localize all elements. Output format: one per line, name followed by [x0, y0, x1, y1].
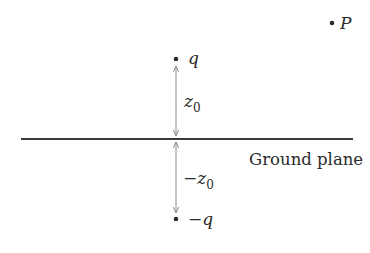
- point-p-dot: [330, 21, 335, 26]
- positive-charge-label: q: [188, 48, 199, 68]
- distance-label-below: −z0: [183, 168, 214, 192]
- point-p-label: P: [339, 13, 352, 33]
- image-charge-diagram: q −q P z0 −z0 Ground plane: [0, 0, 370, 253]
- distance-label-above: z0: [183, 91, 201, 115]
- positive-charge-dot: [174, 57, 179, 62]
- ground-plane-label: Ground plane: [249, 150, 363, 169]
- negative-charge-dot: [174, 217, 179, 222]
- negative-charge-label: −q: [188, 209, 213, 229]
